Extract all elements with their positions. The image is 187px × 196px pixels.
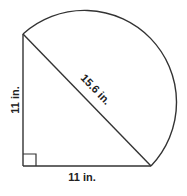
left-leg-label: 11 in. bbox=[9, 86, 21, 114]
right-angle-marker bbox=[23, 154, 36, 166]
hypotenuse-label: 15.6 in. bbox=[79, 72, 114, 107]
composite-figure: 11 in. 11 in. 15.6 in. bbox=[0, 0, 187, 196]
bottom-leg-label: 11 in. bbox=[68, 171, 96, 183]
hypotenuse bbox=[23, 34, 151, 166]
